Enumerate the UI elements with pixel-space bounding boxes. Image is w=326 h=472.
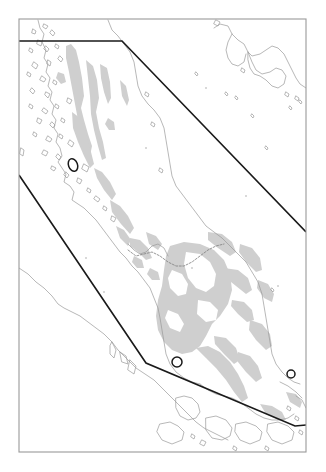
map-figure [0,0,326,472]
map-canvas [0,0,326,472]
map-background [0,0,326,472]
